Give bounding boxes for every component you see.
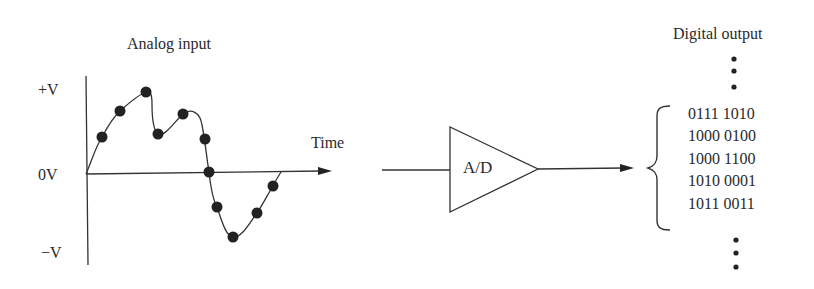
digital-code: 1010 0001 — [688, 170, 756, 192]
digital-code: 1011 0011 — [688, 193, 756, 215]
curly-brace-icon — [648, 106, 670, 230]
digital-code: 0111 1010 — [688, 103, 756, 125]
digital-code-list: 0111 1010 1000 0100 1000 1100 1010 0001 … — [688, 103, 756, 215]
digital-output-title: Digital output — [673, 26, 762, 42]
y-label-negative: −V — [41, 245, 62, 261]
output-line — [538, 168, 624, 169]
y-label-positive: +V — [38, 82, 59, 98]
x-axis-arrow-icon — [318, 167, 332, 175]
ad-converter-label: A/D — [463, 160, 492, 176]
ellipsis-top-icon — [731, 56, 736, 89]
ellipsis-bottom-icon — [733, 237, 738, 269]
digital-code: 1000 1100 — [688, 148, 756, 170]
sample-dots — [97, 87, 279, 243]
x-label-time: Time — [311, 135, 344, 151]
digital-code: 1000 0100 — [688, 125, 756, 147]
y-label-zero: 0V — [38, 167, 58, 183]
output-arrow-icon — [620, 164, 634, 172]
analog-input-title: Analog input — [127, 36, 211, 52]
